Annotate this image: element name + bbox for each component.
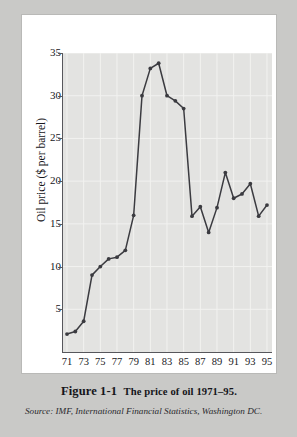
data-point — [82, 319, 86, 323]
data-point — [107, 257, 111, 261]
data-point — [248, 182, 252, 186]
data-point — [123, 248, 127, 252]
x-tick-label-83: 83 — [158, 357, 176, 368]
x-tick-label-81: 81 — [141, 357, 159, 368]
x-tick-label-79: 79 — [125, 357, 143, 368]
data-point — [173, 99, 177, 103]
data-point — [132, 213, 136, 217]
data-point — [65, 332, 69, 336]
source-label: Source: — [25, 406, 53, 416]
x-tick-label-77: 77 — [108, 357, 126, 368]
data-point — [265, 203, 269, 207]
figure-caption: Figure 1-1 The price of oil 1971–95. — [21, 384, 277, 399]
x-axis-line — [62, 352, 272, 353]
figure-caption-text: The price of oil 1971–95. — [123, 386, 236, 397]
data-point — [157, 61, 161, 65]
vertical-gridlines — [67, 53, 267, 352]
data-point — [90, 273, 94, 277]
source-text: IMF, International Financial Statistics,… — [56, 406, 263, 416]
x-tick-label-95: 95 — [258, 357, 276, 368]
data-point — [198, 205, 202, 209]
data-point — [148, 66, 152, 70]
x-tick-label-71: 71 — [58, 357, 76, 368]
data-point — [232, 196, 236, 200]
data-point — [207, 231, 211, 235]
figure-source-note: Source: IMF, International Financial Sta… — [25, 406, 297, 416]
caption-area: Figure 1-1 The price of oil 1971–95. Sou… — [21, 374, 277, 434]
x-tick-label-75: 75 — [91, 357, 109, 368]
oil-price-line-chart — [62, 53, 272, 352]
x-tick-label-73: 73 — [75, 357, 93, 368]
x-tick-label-93: 93 — [241, 357, 259, 368]
data-point — [215, 206, 219, 210]
data-point — [182, 107, 186, 111]
data-point — [223, 171, 227, 175]
data-point — [165, 94, 169, 98]
data-point — [190, 214, 194, 218]
x-tick-label-87: 87 — [191, 357, 209, 368]
plot-area — [62, 53, 272, 352]
data-point — [98, 265, 102, 269]
data-point — [257, 214, 261, 218]
figure-caption-prefix: Figure 1-1 — [61, 384, 117, 398]
x-tick-label-85: 85 — [175, 357, 193, 368]
chart-container: Oil price ($ per barrel) 5101520253035 7… — [21, 14, 277, 374]
figure-page: Oil price ($ per barrel) 5101520253035 7… — [0, 0, 297, 437]
data-point — [240, 192, 244, 196]
x-tick-label-91: 91 — [225, 357, 243, 368]
data-point — [73, 330, 77, 334]
data-point — [140, 94, 144, 98]
x-tick-label-89: 89 — [208, 357, 226, 368]
y-axis-line — [62, 53, 63, 352]
data-point — [115, 255, 119, 259]
